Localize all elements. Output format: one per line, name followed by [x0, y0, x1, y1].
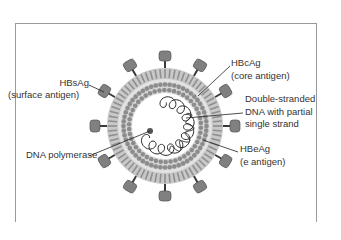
hbsag-label-desc: (surface antigen)	[8, 89, 79, 102]
dna-label-line3: single strand	[245, 118, 315, 131]
hbcag-label-title: HBcAg	[231, 57, 290, 70]
polymerase-label-text: DNA polymerase	[26, 149, 97, 162]
dna-label-line2: DNA with partial	[245, 106, 315, 119]
dna-label: Double-stranded DNA with partial single …	[245, 93, 315, 131]
polymerase-label: DNA polymerase	[26, 149, 97, 162]
hbcag-label: HBcAg (core antigen)	[231, 57, 290, 82]
hbsag-label-title: HBsAg	[28, 77, 89, 90]
dna-label-line1: Double-stranded	[245, 93, 315, 106]
core-capsid	[121, 82, 209, 170]
hbsag-label-sub: (surface antigen)	[8, 89, 79, 102]
hbsag-label: HBsAg	[28, 77, 89, 90]
hbeag-label: HBeAg (e antigen)	[240, 143, 285, 168]
hbeag-label-desc: (e antigen)	[240, 156, 285, 169]
hbeag-label-title: HBeAg	[240, 143, 285, 156]
hbcag-label-desc: (core antigen)	[231, 70, 290, 83]
